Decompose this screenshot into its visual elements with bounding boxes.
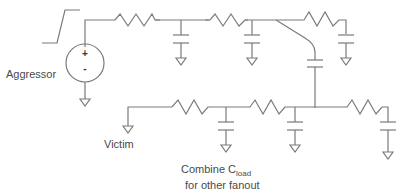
voltage-source: + - [66,20,112,106]
crosstalk-circuit-diagram: + - Aggressor [0,0,406,196]
ground-capacitor [338,35,354,65]
ground-capacitor [218,107,234,152]
plus-sign: + [82,48,88,59]
ground-capacitor [244,20,260,65]
coupling-capacitor [276,20,323,108]
ground-capacitor [287,107,303,152]
other-fanout-label: for other fanout [185,179,260,191]
minus-sign: - [83,63,86,74]
aggressor-label: Aggressor [6,68,56,80]
step-waveform-icon [42,10,80,43]
ground-capacitor [380,122,396,159]
ground-icon [123,126,133,133]
victim-label: Victim [104,138,134,150]
combine-cload-label: Combine Cload [181,163,251,178]
victim-net [123,100,396,159]
ground-icon [80,99,90,106]
ground-capacitor [173,20,189,65]
aggressor-net [112,12,354,65]
